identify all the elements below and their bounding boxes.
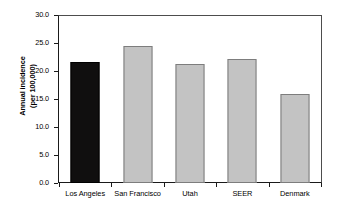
bars-group [59,16,321,183]
x-axis-tick-mark [216,183,217,187]
bar-chart: Annual incidence (per 100,000) 30.025.02… [0,0,344,207]
x-axis: Los AngelesSan FranciscoUtahSEERDenmark [58,183,322,207]
x-axis-tick-label: Los Angeles [65,189,105,198]
x-axis-tick-label: San Francisco [114,189,161,198]
bar-slot [59,16,111,183]
x-axis-tick-label: SEER [232,189,252,198]
y-axis-title: Annual incidence (per 100,000) [15,11,41,161]
bar-los-angeles[interactable] [71,62,100,183]
y-axis-tick-label: 25.0 [35,38,49,47]
x-axis-tick-mark [59,183,60,187]
bar-san-francisco[interactable] [123,46,152,183]
y-axis-tick-label: 15.0 [35,94,49,103]
y-axis-tick-label: 30.0 [35,10,49,19]
x-axis-tick-mark [269,183,270,187]
y-axis-tick-label: 5.0 [39,150,49,159]
bar-utah[interactable] [175,64,204,183]
x-axis-tick-label: Denmark [280,189,310,198]
bar-denmark[interactable] [280,94,309,183]
bar-slot [269,16,321,183]
bar-slot [164,16,216,183]
bar-seer[interactable] [228,59,257,183]
bar-slot [216,16,268,183]
y-axis-tick-label: 20.0 [35,66,49,75]
x-axis-tick-mark [321,183,322,187]
x-axis-tick-label: Utah [182,189,197,198]
x-axis-tick-mark [111,183,112,187]
y-axis-title-line1: Annual incidence [18,56,28,116]
x-axis-tick-mark [164,183,165,187]
y-axis-tick-label: 0.0 [39,178,49,187]
bar-slot [111,16,163,183]
y-axis-tick-label: 10.0 [35,122,49,131]
